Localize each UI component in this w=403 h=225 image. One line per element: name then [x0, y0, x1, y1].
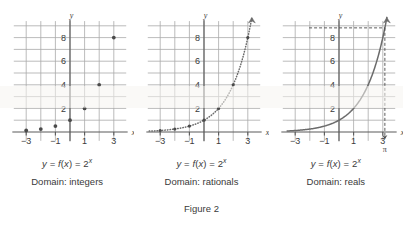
- panel-integers-plot: xy−3−1132468: [0, 0, 134, 160]
- curve-arrowhead: [383, 17, 390, 23]
- x-tick-label: −3: [290, 136, 300, 146]
- data-point: [159, 129, 162, 132]
- x-tick-label: 3: [111, 136, 116, 146]
- pi-construction-lines: [309, 28, 385, 139]
- y-tick-label: 8: [330, 33, 335, 43]
- y-tick-label: 4: [195, 80, 200, 90]
- axis-label-x: x: [399, 128, 403, 137]
- y-tick-label: 8: [195, 33, 200, 43]
- data-point: [68, 118, 72, 122]
- data-point: [39, 127, 43, 131]
- data-point: [174, 127, 177, 130]
- x-tick-label: −1: [319, 136, 329, 146]
- x-tick-label: −3: [155, 136, 165, 146]
- x-tick-label: 1: [82, 136, 87, 146]
- figure-caption: Figure 2: [0, 203, 403, 214]
- panel-rationals-plot: xy−3−1132468: [134, 0, 268, 160]
- data-point: [83, 106, 87, 110]
- figure-2-container: xy−3−1132468y = f(x) = 2xDomain: integer…: [0, 0, 403, 225]
- panel-integers-equation: y = f(x) = 2x: [0, 158, 134, 169]
- panel-reals-plot: xy−3−1132468π: [269, 0, 403, 160]
- panel-rationals-domain-label: Domain: rationals: [134, 176, 268, 187]
- data-point: [53, 124, 57, 128]
- x-tick-label: 3: [246, 136, 251, 146]
- panel-row: xy−3−1132468y = f(x) = 2xDomain: integer…: [0, 0, 403, 200]
- exponential-curve-solid: [287, 17, 387, 131]
- axis-label-y: y: [69, 11, 74, 20]
- exponential-curve-dotted: [150, 17, 253, 131]
- axis-label-y: y: [203, 11, 208, 20]
- curve-arrowhead: [249, 17, 256, 23]
- x-tick-label: 1: [351, 136, 356, 146]
- data-point: [217, 107, 220, 110]
- y-tick-label: 6: [330, 56, 335, 66]
- y-tick-label: 4: [330, 80, 335, 90]
- panel-reals-equation: y = f(x) = 2x: [269, 158, 403, 169]
- data-point: [203, 119, 206, 122]
- pi-label: π: [383, 145, 387, 154]
- y-tick-label: 4: [61, 80, 66, 90]
- panel-integers-domain-label: Domain: integers: [0, 176, 134, 187]
- y-tick-label: 2: [195, 104, 200, 114]
- panel-integers: xy−3−1132468y = f(x) = 2xDomain: integer…: [0, 0, 134, 200]
- x-tick-label: −3: [21, 136, 31, 146]
- x-tick-label: 1: [216, 136, 221, 146]
- y-tick-label: 6: [195, 56, 200, 66]
- axis-label-y: y: [337, 11, 342, 20]
- panel-reals: xy−3−1132468πy = f(x) = 2xDomain: reals: [269, 0, 403, 200]
- x-tick-label: −1: [185, 136, 195, 146]
- y-tick-label: 6: [61, 56, 66, 66]
- x-tick-label: −1: [50, 136, 60, 146]
- axes: [12, 20, 127, 141]
- data-point: [112, 36, 116, 40]
- panel-rationals: xy−3−1132468y = f(x) = 2xDomain: rationa…: [134, 0, 268, 200]
- axes: [281, 20, 396, 141]
- data-point: [24, 129, 28, 133]
- axes: [147, 20, 262, 141]
- data-point: [97, 83, 101, 87]
- panel-rationals-equation: y = f(x) = 2x: [134, 158, 268, 169]
- data-point: [188, 124, 191, 127]
- data-point: [247, 36, 250, 39]
- data-point: [232, 83, 235, 86]
- y-tick-label: 2: [61, 104, 66, 114]
- y-tick-label: 2: [330, 104, 335, 114]
- y-tick-label: 8: [61, 33, 66, 43]
- panel-reals-domain-label: Domain: reals: [269, 176, 403, 187]
